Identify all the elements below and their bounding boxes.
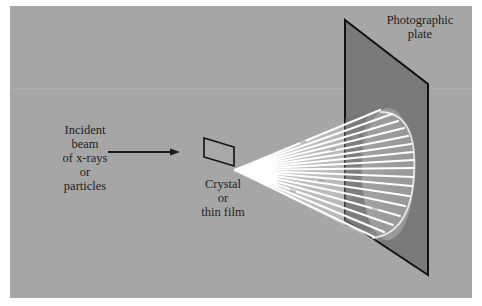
incident-label-line-5: particles	[40, 179, 130, 193]
incident-label-line-3: of x-rays	[40, 151, 130, 165]
crystal-sample	[204, 138, 234, 166]
incident-label-line-2: beam	[40, 137, 130, 151]
plate-label: Photographic plate	[372, 13, 468, 41]
incident-label-line-1: Incident	[40, 123, 130, 137]
crystal-label-line-3: thin film	[188, 205, 258, 219]
crystal-label: Crystal or thin film	[188, 177, 258, 219]
plate-label-line-1: Photographic	[372, 13, 468, 27]
crystal-label-line-2: or	[188, 191, 258, 205]
plate-label-line-2: plate	[372, 27, 468, 41]
incident-label-line-4: or	[40, 165, 130, 179]
incident-beam-label: Incident beam of x-rays or particles	[40, 123, 130, 193]
diffracted-cone	[235, 108, 414, 241]
crystal-label-line-1: Crystal	[188, 177, 258, 191]
